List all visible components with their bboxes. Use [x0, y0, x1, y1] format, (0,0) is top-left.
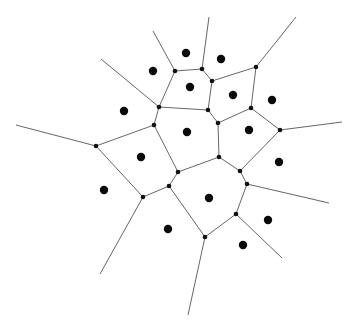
site-point	[120, 107, 128, 115]
voronoi-edge	[219, 157, 240, 171]
site-point	[264, 216, 272, 224]
ray-edge	[100, 197, 143, 274]
site-point	[137, 153, 145, 161]
voronoi-vertex	[278, 128, 283, 133]
voronoi-edge	[212, 67, 256, 81]
voronoi-edge	[143, 186, 169, 197]
site-point	[100, 186, 108, 194]
voronoi-edge	[205, 214, 236, 237]
voronoi-edge	[96, 125, 154, 146]
site-point	[164, 225, 172, 233]
site-point	[275, 158, 283, 166]
generator-sites	[100, 49, 283, 249]
site-point	[186, 83, 194, 91]
voronoi-vertex	[217, 155, 222, 160]
voronoi-vertex	[238, 169, 243, 174]
voronoi-vertex	[152, 123, 157, 128]
site-point	[245, 126, 253, 134]
voronoi-edge	[240, 130, 280, 171]
voronoi-edge	[154, 125, 178, 172]
voronoi-vertex	[157, 105, 162, 110]
voronoi-edge	[159, 107, 208, 110]
voronoi-edge	[251, 67, 256, 108]
ray-edge	[153, 31, 175, 71]
voronoi-vertex	[254, 65, 259, 70]
voronoi-vertex	[216, 121, 221, 126]
voronoi-edge	[175, 69, 202, 71]
voronoi-edge	[218, 108, 251, 123]
ray-edge	[236, 214, 282, 258]
voronoi-vertex	[94, 144, 99, 149]
voronoi-vertex	[245, 182, 250, 187]
voronoi-vertex	[210, 79, 215, 84]
ray-edge	[101, 59, 159, 107]
voronoi-vertex	[167, 184, 172, 189]
ray-edge	[202, 17, 209, 69]
voronoi-edge	[251, 108, 280, 130]
voronoi-vertex	[203, 235, 208, 240]
site-point	[183, 128, 191, 136]
ray-edge	[256, 17, 296, 67]
voronoi-vertex	[206, 108, 211, 113]
voronoi-vertex	[141, 195, 146, 200]
voronoi-edge	[159, 71, 175, 107]
ray-edge	[280, 122, 342, 130]
unbounded-edges	[16, 17, 342, 315]
ray-edge	[188, 237, 205, 315]
voronoi-vertex	[249, 106, 254, 111]
site-point	[182, 49, 190, 57]
voronoi-vertex	[176, 170, 181, 175]
voronoi-edge	[154, 107, 159, 125]
voronoi-edge	[202, 69, 212, 81]
site-point	[268, 96, 276, 104]
site-point	[239, 241, 247, 249]
site-point	[205, 194, 213, 202]
voronoi-edge	[208, 110, 218, 123]
voronoi-diagram	[0, 0, 351, 328]
voronoi-edge	[208, 81, 212, 110]
voronoi-edges	[96, 67, 280, 237]
voronoi-vertex	[200, 67, 205, 72]
site-point	[217, 55, 225, 63]
voronoi-edge	[169, 186, 205, 237]
voronoi-edge	[178, 157, 219, 172]
voronoi-vertex	[173, 69, 178, 74]
voronoi-vertex	[234, 212, 239, 217]
voronoi-edge	[218, 123, 219, 157]
ray-edge	[247, 184, 329, 203]
ray-edge	[16, 125, 96, 146]
site-point	[229, 91, 237, 99]
voronoi-edge	[236, 184, 247, 214]
voronoi-edge	[169, 172, 178, 186]
site-point	[149, 67, 157, 75]
